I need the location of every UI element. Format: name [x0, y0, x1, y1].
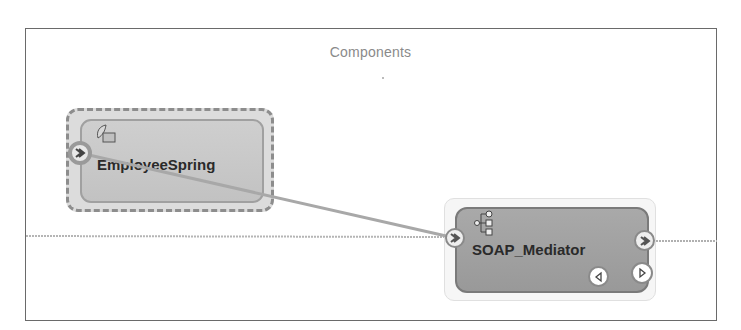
chevron-right-icon [639, 235, 651, 247]
wire-layer-top [0, 0, 741, 330]
soap-mediator-reference-port[interactable] [634, 230, 655, 251]
wire-employee-spring-to-mediator[interactable] [80, 153, 455, 238]
chevron-right-icon [449, 232, 461, 244]
soap-mediator-callback-left-port[interactable] [588, 266, 609, 287]
soap-mediator-callback-right-port[interactable] [631, 262, 653, 284]
soap-mediator-service-port[interactable] [445, 228, 465, 248]
triangle-left-icon [593, 271, 605, 283]
chevron-right-icon [74, 147, 86, 159]
employee-spring-service-port[interactable] [68, 141, 92, 165]
triangle-right-icon [636, 267, 648, 279]
